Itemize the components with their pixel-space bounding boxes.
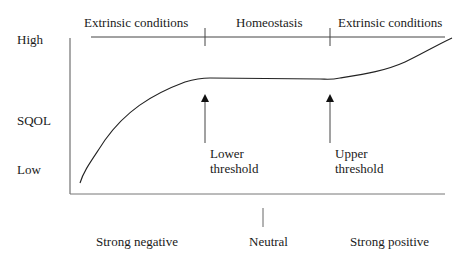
diagram-canvas — [0, 0, 467, 264]
x-axis-label-neutral: Neutral — [249, 234, 288, 249]
region-label-extrinsic-right: Extrinsic conditions — [338, 15, 442, 30]
lower-threshold-label-line1: Lower — [210, 146, 244, 161]
upper-threshold-label-line1: Upper — [335, 146, 368, 161]
lower-threshold-label-line2: threshold — [210, 161, 258, 176]
upper-threshold-arrow-icon — [326, 94, 334, 102]
y-axis-high-label: High — [17, 32, 43, 47]
y-axis-title: SQOL — [17, 113, 51, 128]
x-axis-label-strong-positive: Strong positive — [350, 234, 429, 249]
x-axis-label-strong-negative: Strong negative — [96, 234, 178, 249]
lower-threshold-arrow-icon — [201, 94, 209, 102]
region-label-extrinsic-left: Extrinsic conditions — [84, 15, 188, 30]
upper-threshold-label-line2: threshold — [335, 161, 383, 176]
sqol-curve — [80, 38, 452, 183]
region-label-homeostasis: Homeostasis — [236, 15, 302, 30]
y-axis-low-label: Low — [17, 162, 41, 177]
